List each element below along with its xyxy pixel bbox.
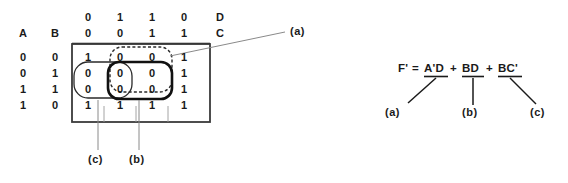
equation-term-a: A'D xyxy=(424,62,444,74)
equation-label-b: (b) xyxy=(462,107,478,118)
kmap-cell-r2c2: 0 xyxy=(145,84,159,95)
equation-term-b: BD xyxy=(462,62,479,74)
col-var-label-c: C xyxy=(213,28,227,39)
kmap-cell-r0c1: 0 xyxy=(113,52,127,63)
equation-label-c: (c) xyxy=(530,107,545,118)
equation-term-c: BC' xyxy=(498,62,518,74)
col-header-d-1: 1 xyxy=(113,12,127,23)
col-header-c-3: 1 xyxy=(177,28,191,39)
equation-plus-1: + xyxy=(450,62,457,74)
col-header-d-0: 0 xyxy=(81,12,95,23)
kmap-cell-r0c3: 1 xyxy=(177,52,191,63)
kmap-cell-r1c0: 0 xyxy=(81,68,95,79)
col-header-c-0: 0 xyxy=(81,28,95,39)
callout-label-a: (a) xyxy=(290,26,305,37)
col-header-d-3: 0 xyxy=(177,12,191,23)
row-header-b-3: 0 xyxy=(48,100,62,111)
kmap-cell-r3c0: 1 xyxy=(81,100,95,111)
callout-label-b: (b) xyxy=(129,154,145,165)
equation-label-a: (a) xyxy=(385,107,400,118)
row-header-a-3: 1 xyxy=(16,100,30,111)
row-var-label-a: A xyxy=(16,28,30,39)
kmap-cell-r0c2: 0 xyxy=(145,52,159,63)
col-var-label-d: D xyxy=(213,12,227,23)
equation-connector-c xyxy=(510,78,536,104)
row-header-a-1: 0 xyxy=(16,68,30,79)
equation-equals: = xyxy=(412,62,419,74)
row-header-a-2: 1 xyxy=(16,84,30,95)
equation-plus-2: + xyxy=(486,62,493,74)
kmap-cell-r1c3: 1 xyxy=(177,68,191,79)
kmap-cell-r0c0: 1 xyxy=(81,52,95,63)
equation-connector-a xyxy=(408,78,436,103)
callout-label-c: (c) xyxy=(88,154,103,165)
row-header-b-0: 0 xyxy=(48,52,62,63)
row-header-b-2: 1 xyxy=(48,84,62,95)
kmap-cell-r2c3: 1 xyxy=(177,84,191,95)
kmap-cell-r3c3: 1 xyxy=(177,100,191,111)
row-header-b-1: 1 xyxy=(48,68,62,79)
row-header-a-0: 0 xyxy=(16,52,30,63)
kmap-diagram-canvas: 0 1 1 0 D 0 0 1 1 C A B 0 0 1 1 0 1 1 0 … xyxy=(0,0,568,183)
kmap-cell-r3c1: 1 xyxy=(113,100,127,111)
row-var-label-b: B xyxy=(48,28,62,39)
kmap-cell-r2c1: 0 xyxy=(113,84,127,95)
kmap-cell-r1c2: 0 xyxy=(145,68,159,79)
col-header-c-2: 1 xyxy=(145,28,159,39)
equation-lhs: F' xyxy=(398,62,408,74)
col-header-c-1: 0 xyxy=(113,28,127,39)
col-header-d-2: 1 xyxy=(145,12,159,23)
kmap-cell-r3c2: 1 xyxy=(145,100,159,111)
kmap-cell-r2c0: 0 xyxy=(81,84,95,95)
kmap-cell-r1c1: 0 xyxy=(113,68,127,79)
